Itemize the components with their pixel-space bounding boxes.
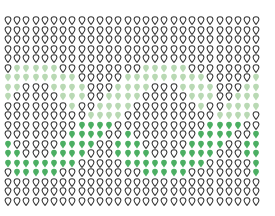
- pin-icon-outline: [206, 178, 214, 187]
- pin-icon-outline: [151, 140, 159, 149]
- pin-icon-light-green: [243, 102, 251, 111]
- pin-icon-light-green: [234, 92, 242, 101]
- pin-icon-outline: [105, 45, 113, 54]
- pin-icon-outline: [13, 45, 21, 54]
- pin-icon-outline: [234, 178, 242, 187]
- pin-icon-outline: [22, 102, 30, 111]
- pin-icon-outline: [170, 92, 178, 101]
- pin-icon-light-green: [114, 111, 122, 120]
- pin-icon-outline: [160, 140, 168, 149]
- pin-icon-outline: [41, 149, 49, 158]
- pin-icon-outline: [22, 140, 30, 149]
- pin-icon-outline: [160, 111, 168, 120]
- pin-icon-dark-green: [197, 140, 205, 149]
- pin-icon-outline: [216, 64, 224, 73]
- pin-icon-outline: [179, 121, 187, 130]
- pin-icon-outline: [179, 197, 187, 206]
- pin-icon-light-green: [32, 64, 40, 73]
- pin-icon-outline: [41, 102, 49, 111]
- pin-icon-outline: [216, 35, 224, 44]
- pin-icon-outline: [179, 16, 187, 25]
- pin-icon-outline: [78, 73, 86, 82]
- pin-icon-outline: [225, 159, 233, 168]
- pin-icon-dark-green: [170, 159, 178, 168]
- pin-icon-outline: [32, 45, 40, 54]
- pin-icon-outline: [78, 187, 86, 196]
- pin-icon-outline: [170, 197, 178, 206]
- pin-icon-outline: [96, 83, 104, 92]
- pin-icon-outline: [160, 26, 168, 35]
- pin-icon-outline: [78, 26, 86, 35]
- pin-icon-outline: [225, 149, 233, 158]
- pin-icon-light-green: [105, 92, 113, 101]
- pin-icon-outline: [87, 54, 95, 63]
- pin-icon-outline: [216, 187, 224, 196]
- pin-icon-dark-green: [105, 121, 113, 130]
- pin-icon-outline: [13, 26, 21, 35]
- pin-icon-outline: [96, 45, 104, 54]
- pin-icon-dark-green: [87, 121, 95, 130]
- pin-icon-outline: [216, 45, 224, 54]
- pin-icon-outline: [243, 197, 251, 206]
- pin-icon-outline: [59, 168, 67, 177]
- pin-icon-dark-green: [13, 168, 21, 177]
- pin-icon-light-green: [142, 83, 150, 92]
- pin-icon-outline: [87, 45, 95, 54]
- pin-icon-outline: [252, 45, 260, 54]
- pin-icon-outline: [68, 121, 76, 130]
- pin-icon-outline: [142, 54, 150, 63]
- pin-icon-outline: [41, 26, 49, 35]
- pin-icon-outline: [142, 121, 150, 130]
- pin-icon-outline: [197, 168, 205, 177]
- pin-icon-outline: [124, 35, 132, 44]
- pin-icon-light-green: [188, 92, 196, 101]
- pin-icon-outline: [252, 178, 260, 187]
- pin-icon-outline: [252, 54, 260, 63]
- pin-icon-outline: [32, 16, 40, 25]
- pin-icon-outline: [78, 64, 86, 73]
- pin-icon-outline: [225, 92, 233, 101]
- pin-icon-light-green: [68, 73, 76, 82]
- pin-icon-dark-green: [32, 159, 40, 168]
- pin-icon-dark-green: [78, 149, 86, 158]
- pin-icon-light-green: [78, 83, 86, 92]
- pin-icon-outline: [41, 130, 49, 139]
- pin-icon-outline: [124, 45, 132, 54]
- pin-icon-outline: [32, 26, 40, 35]
- pin-icon-outline: [4, 187, 12, 196]
- pin-icon-dark-green: [206, 140, 214, 149]
- pin-icon-outline: [160, 83, 168, 92]
- pin-icon-outline: [22, 92, 30, 101]
- pin-icon-outline: [206, 64, 214, 73]
- pin-icon-outline: [225, 26, 233, 35]
- pin-icon-outline: [41, 140, 49, 149]
- pin-icon-outline: [151, 111, 159, 120]
- pin-icon-outline: [234, 168, 242, 177]
- pin-icon-outline: [197, 121, 205, 130]
- pin-icon-outline: [87, 159, 95, 168]
- pin-icon-outline: [68, 197, 76, 206]
- pin-icon-outline: [160, 149, 168, 158]
- pin-icon-outline: [41, 16, 49, 25]
- pin-icon-dark-green: [78, 140, 86, 149]
- pin-icon-outline: [160, 16, 168, 25]
- pin-icon-light-green: [105, 111, 113, 120]
- pin-icon-dark-green: [96, 121, 104, 130]
- pin-icon-outline: [124, 187, 132, 196]
- pin-icon-outline: [96, 64, 104, 73]
- pin-icon-outline: [13, 16, 21, 25]
- pin-icon-outline: [124, 168, 132, 177]
- pin-icon-outline: [105, 159, 113, 168]
- pin-icon-outline: [4, 178, 12, 187]
- pin-icon-outline: [32, 121, 40, 130]
- pin-icon-outline: [225, 35, 233, 44]
- pin-icon-outline: [188, 54, 196, 63]
- pin-icon-dark-green: [206, 130, 214, 139]
- pin-icon-outline: [41, 187, 49, 196]
- pin-icon-outline: [225, 54, 233, 63]
- pin-icon-light-green: [243, 111, 251, 120]
- pin-icon-outline: [4, 35, 12, 44]
- pin-icon-light-green: [179, 73, 187, 82]
- pin-icon-dark-green: [179, 168, 187, 177]
- pin-icon-outline: [50, 92, 58, 101]
